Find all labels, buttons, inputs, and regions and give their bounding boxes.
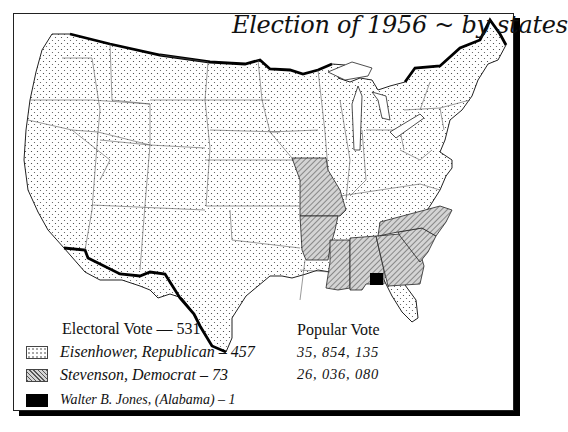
- solid-swatch-icon: [26, 394, 48, 407]
- popular-vote-eisenhower: 35, 854, 135: [297, 344, 380, 361]
- legend-label: Stevenson, Democrat – 73: [60, 366, 228, 384]
- legend-item-eisenhower: Eisenhower, Republican – 457: [26, 342, 255, 362]
- popular-vote-heading: Popular Vote: [297, 321, 380, 339]
- popular-vote-stevenson: 26, 036, 080: [297, 366, 380, 383]
- dotted-swatch-icon: [26, 346, 48, 359]
- jones-elector-marker: [370, 273, 383, 285]
- legend-heading: Electoral Vote — 531: [62, 320, 201, 338]
- hatched-swatch-icon: [26, 369, 48, 382]
- us-mainland: [24, 20, 506, 352]
- legend-item-stevenson: Stevenson, Democrat – 73: [26, 365, 228, 385]
- popular-vote: Popular Vote 35, 854, 135 26, 036, 080: [297, 321, 380, 383]
- legend-label: Walter B. Jones, (Alabama) – 1: [60, 392, 236, 408]
- legend-label: Eisenhower, Republican – 457: [60, 343, 255, 361]
- state-mississippi: [326, 240, 350, 290]
- map-title: Election of 1956 ~ by states: [232, 11, 568, 39]
- legend-item-jones: Walter B. Jones, (Alabama) – 1: [26, 390, 236, 410]
